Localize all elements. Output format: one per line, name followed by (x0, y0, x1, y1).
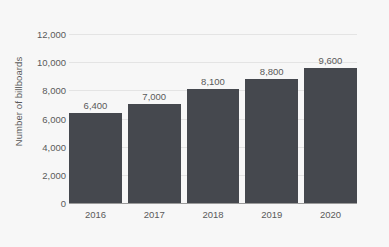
x-axis-tick-label: 2016 (69, 206, 122, 224)
x-axis-tick-labels: 20162017201820192020 (69, 206, 357, 224)
x-axis-tick-label: 2019 (245, 206, 298, 224)
bar-value-label: 6,400 (69, 100, 122, 111)
y-axis-tick-label: 12,000 (26, 29, 66, 40)
bar-value-label: 9,600 (304, 55, 357, 66)
y-axis-tick-label: 8,000 (26, 85, 66, 96)
bars-container: 6,4007,0008,1008,8009,600 (69, 34, 357, 203)
y-axis-tick-label: 4,000 (26, 141, 66, 152)
y-axis-tick-label: 6,000 (26, 113, 66, 124)
bar-value-label: 8,100 (187, 76, 240, 87)
x-axis-tick-label: 2020 (304, 206, 357, 224)
x-axis-tick-label: 2017 (128, 206, 181, 224)
bar-slot: 7,000 (128, 34, 181, 203)
x-axis-line (69, 203, 357, 204)
y-axis-title-label: Number of billboards (14, 57, 25, 147)
bar-value-label: 8,800 (245, 66, 298, 77)
y-axis-tick-label: 10,000 (26, 57, 66, 68)
y-axis-tick-label: 2,000 (26, 169, 66, 180)
bar-2016[interactable] (69, 113, 122, 203)
x-axis-tick-label: 2018 (187, 206, 240, 224)
bar-slot: 6,400 (69, 34, 122, 203)
y-axis-tick-labels: 02,0004,0006,0008,00010,00012,000 (26, 0, 66, 207)
bar-2019[interactable] (245, 79, 298, 203)
bar-2017[interactable] (128, 104, 181, 203)
bar-chart-figure: Number of billboards 02,0004,0006,0008,0… (0, 0, 389, 247)
bar-slot: 8,100 (187, 34, 240, 203)
bar-2020[interactable] (304, 68, 357, 203)
bar-2018[interactable] (187, 89, 240, 203)
bar-slot: 8,800 (245, 34, 298, 203)
y-axis-tick-label: 0 (26, 198, 66, 209)
bar-slot: 9,600 (304, 34, 357, 203)
bar-value-label: 7,000 (128, 91, 181, 102)
